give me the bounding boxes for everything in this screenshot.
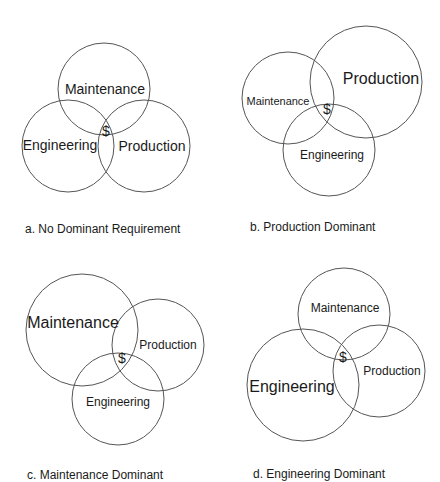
caption-a: a. No Dominant Requirement xyxy=(25,222,180,236)
engineering-label: Engineering xyxy=(86,395,150,409)
maintenance-label: Maintenance xyxy=(27,314,119,331)
dollar-symbol: $ xyxy=(339,349,347,365)
production-label: Production xyxy=(363,364,420,378)
production-label: Production xyxy=(139,338,196,352)
panel-c-maintenance-dominant: Maintenance Production Engineering $ xyxy=(26,274,204,445)
dollar-symbol: $ xyxy=(102,123,110,139)
maintenance-label: Maintenance xyxy=(311,301,380,315)
caption-b: b. Production Dominant xyxy=(250,220,375,234)
production-label: Production xyxy=(119,138,186,154)
engineering-label: Engineering xyxy=(300,148,364,162)
panel-b-production-dominant: Maintenance Production Engineering $ xyxy=(242,26,422,196)
engineering-label: Engineering xyxy=(249,378,334,395)
caption-c: c. Maintenance Dominant xyxy=(27,468,163,482)
engineering-label: Engineering xyxy=(23,137,98,153)
production-label: Production xyxy=(343,70,420,87)
maintenance-label: Maintenance xyxy=(247,95,310,107)
dollar-symbol: $ xyxy=(323,101,331,117)
dollar-symbol: $ xyxy=(118,350,126,366)
caption-d: d. Engineering Dominant xyxy=(253,467,385,481)
panel-d-engineering-dominant: Maintenance Production Engineering $ xyxy=(247,268,425,441)
panel-a-no-dominant: Maintenance Engineering Production $ xyxy=(22,43,190,192)
maintenance-label: Maintenance xyxy=(65,81,145,97)
